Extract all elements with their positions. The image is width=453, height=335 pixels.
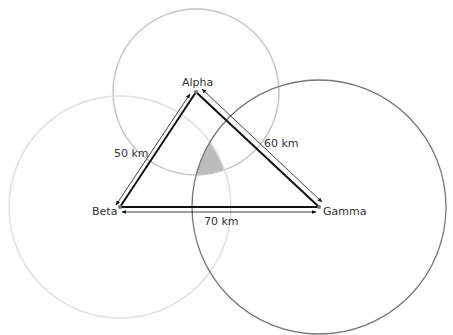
alpha-point bbox=[194, 90, 198, 94]
arrow-alpha-gamma bbox=[202, 89, 322, 202]
gamma-point bbox=[317, 205, 321, 209]
alpha-label: Alpha bbox=[182, 76, 213, 89]
distance-label-beta-gamma: 70 km bbox=[204, 215, 239, 228]
trilateration-diagram: Alpha Beta Gamma 50 km 60 km 70 km bbox=[0, 0, 453, 335]
distance-label-alpha-gamma: 60 km bbox=[264, 137, 299, 150]
gamma-label: Gamma bbox=[323, 205, 366, 218]
beta-point bbox=[118, 205, 122, 209]
distance-label-alpha-beta: 50 km bbox=[114, 147, 149, 160]
beta-label: Beta bbox=[92, 205, 117, 218]
diagram-canvas: Alpha Beta Gamma 50 km 60 km 70 km bbox=[0, 0, 453, 335]
